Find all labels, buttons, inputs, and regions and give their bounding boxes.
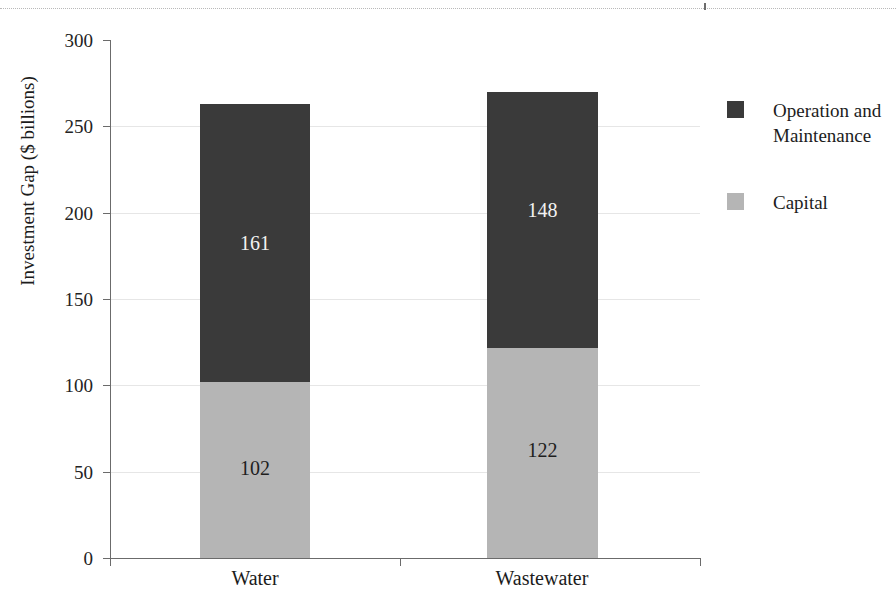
x-tick-left xyxy=(110,558,111,566)
bar-segment-water-capital[interactable]: 102 xyxy=(200,382,310,558)
y-axis-title: Investment Gap ($ billions) xyxy=(17,31,39,331)
gridline-250 xyxy=(110,126,700,127)
x-tick-center xyxy=(400,558,401,566)
gridline-200 xyxy=(110,213,700,214)
y-tick-0 xyxy=(103,558,110,559)
y-axis-line xyxy=(110,40,111,559)
y-tick-label-50: 50 xyxy=(33,463,93,482)
x-axis-line xyxy=(110,558,701,559)
plot-area: 161 102 148 122 xyxy=(110,40,700,558)
legend-item-operation-and-maintenance[interactable]: Operation and Maintenance xyxy=(727,98,892,148)
y-tick-label-150: 150 xyxy=(33,290,93,309)
bar-group-water[interactable]: 161 102 xyxy=(200,40,310,558)
bar-value-label-wastewater-capital: 122 xyxy=(487,440,598,460)
bar-segment-wastewater-operation-and-maintenance[interactable]: 148 xyxy=(487,92,598,348)
legend-label-capital: Capital xyxy=(773,190,828,215)
y-tick-200 xyxy=(103,213,110,214)
gridline-100 xyxy=(110,385,700,386)
y-tick-label-300: 300 xyxy=(33,31,93,50)
y-tick-label-0: 0 xyxy=(33,549,93,568)
y-tick-100 xyxy=(103,385,110,386)
y-tick-label-100: 100 xyxy=(33,376,93,395)
y-tick-label-250: 250 xyxy=(33,117,93,136)
stacked-bar-chart: Investment Gap ($ billions) 161 102 148 xyxy=(0,0,896,615)
x-category-label-water: Water xyxy=(195,566,315,590)
y-tick-150 xyxy=(103,299,110,300)
x-tick-right xyxy=(700,558,701,566)
bar-value-label-water-om: 161 xyxy=(200,233,310,253)
bar-group-wastewater[interactable]: 148 122 xyxy=(487,40,598,558)
gridline-150 xyxy=(110,299,700,300)
bar-segment-wastewater-capital[interactable]: 122 xyxy=(487,348,598,558)
legend-swatch-icon-operation-and-maintenance xyxy=(727,101,744,118)
legend-label-operation-and-maintenance: Operation and Maintenance xyxy=(773,98,892,148)
y-tick-250 xyxy=(103,126,110,127)
bar-segment-water-operation-and-maintenance[interactable]: 161 xyxy=(200,104,310,382)
y-tick-label-200: 200 xyxy=(33,204,93,223)
gridline-50 xyxy=(110,472,700,473)
x-category-label-wastewater: Wastewater xyxy=(472,566,612,590)
bar-value-label-wastewater-om: 148 xyxy=(487,200,598,220)
legend-item-capital[interactable]: Capital xyxy=(727,190,828,215)
y-tick-50 xyxy=(103,472,110,473)
legend-swatch-icon-capital xyxy=(727,193,744,210)
y-tick-300 xyxy=(103,40,110,41)
bar-value-label-water-capital: 102 xyxy=(200,458,310,478)
